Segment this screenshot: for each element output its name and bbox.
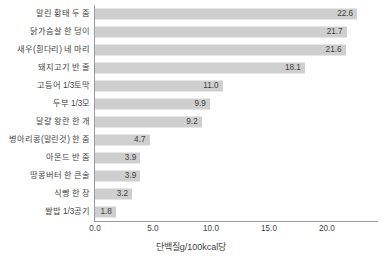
x-tick-label: 10.0 — [203, 225, 219, 233]
bar-value-label: 3.2 — [117, 190, 128, 198]
bar-row: 쌀밥 1/3공기1.8 — [95, 203, 378, 221]
bar — [95, 45, 346, 56]
category-label: 닭가슴살 한 덩이 — [30, 28, 90, 36]
bar-row: 말린 황태 두 줌22.6 — [95, 5, 378, 23]
bar-value-label: 11.0 — [203, 82, 218, 90]
category-label: 땅콩버터 한 큰술 — [30, 172, 90, 180]
x-tick-label: 5.0 — [147, 225, 158, 233]
bar-row: 두부 1/3모9.9 — [95, 95, 378, 113]
category-label: 병아리콩(말린것) 한 줌 — [9, 136, 90, 144]
bar — [95, 63, 305, 74]
bar-value-label: 3.9 — [125, 154, 136, 162]
x-tick-label: 0.0 — [89, 225, 100, 233]
bar-value-label: 4.7 — [134, 136, 145, 144]
bar-row: 새우(흰다리) 네 마리21.6 — [95, 41, 378, 59]
category-label: 식빵 한 장 — [54, 190, 90, 198]
bar-chart: 말린 황태 두 줌22.6닭가슴살 한 덩이21.7새우(흰다리) 네 마리21… — [0, 0, 382, 268]
category-label: 아몬드 반 줌 — [46, 154, 90, 162]
bar-row: 병아리콩(말린것) 한 줌4.7 — [95, 131, 378, 149]
bar-rows: 말린 황태 두 줌22.6닭가슴살 한 덩이21.7새우(흰다리) 네 마리21… — [95, 5, 378, 221]
bar-row: 고등어 1/3토막11.0 — [95, 77, 378, 95]
bar-value-label: 1.8 — [100, 208, 111, 216]
x-axis-ticks: 0.05.010.015.020.0 — [95, 222, 378, 236]
x-tick-label: 15.0 — [261, 225, 277, 233]
plot-area: 말린 황태 두 줌22.6닭가슴살 한 덩이21.7새우(흰다리) 네 마리21… — [95, 5, 378, 221]
category-label: 쌀밥 1/3공기 — [45, 208, 90, 216]
category-label: 새우(흰다리) 네 마리 — [17, 46, 90, 54]
bar-value-label: 3.9 — [125, 172, 136, 180]
category-label: 두부 1/3모 — [53, 100, 90, 108]
bar-row: 아몬드 반 줌3.9 — [95, 149, 378, 167]
bar-row: 돼지고기 반 줄18.1 — [95, 59, 378, 77]
bar-value-label: 22.6 — [337, 10, 353, 18]
x-axis-title: 단백질g/100kcal당 — [0, 243, 382, 252]
bar-row: 땅콩버터 한 큰술3.9 — [95, 167, 378, 185]
bar-row: 식빵 한 장3.2 — [95, 185, 378, 203]
bar — [95, 27, 347, 38]
bar-row: 달걀 왕란 한 개9.2 — [95, 113, 378, 131]
x-tick-label: 20.0 — [319, 225, 335, 233]
category-label: 돼지고기 반 줄 — [38, 64, 90, 72]
bar-value-label: 18.1 — [285, 64, 301, 72]
category-label: 고등어 1/3토막 — [37, 82, 90, 90]
bar-value-label: 21.7 — [327, 28, 343, 36]
bar-value-label: 9.2 — [186, 118, 197, 126]
category-label: 달걀 왕란 한 개 — [36, 118, 90, 126]
bar — [95, 9, 357, 20]
bar-value-label: 21.6 — [326, 46, 342, 54]
bar-value-label: 9.9 — [194, 100, 205, 108]
bar-row: 닭가슴살 한 덩이21.7 — [95, 23, 378, 41]
category-label: 말린 황태 두 줌 — [36, 10, 90, 18]
bar — [95, 99, 210, 110]
